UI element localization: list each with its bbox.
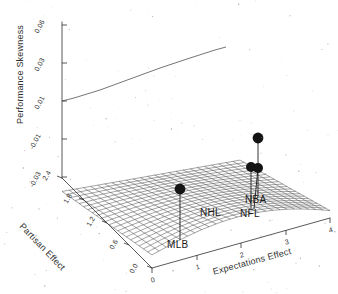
axis-lines — [62, 22, 330, 268]
mesh-surface — [62, 160, 330, 255]
surface-back-edge — [62, 47, 226, 101]
marker-label-nba: NBA — [245, 195, 266, 205]
marker-label-nhl: NHL — [200, 208, 221, 218]
marker-mlb — [175, 184, 186, 195]
marker-label-nfl: NFL — [240, 209, 260, 219]
marker-nfl — [253, 163, 263, 173]
surface-plot-figure: Performance Skewness 0.06 0.03 0.01 -0.0… — [0, 0, 338, 294]
marker-label-mlb: MLB — [167, 240, 188, 250]
z-axis-title: Performance Skewness — [16, 25, 25, 124]
